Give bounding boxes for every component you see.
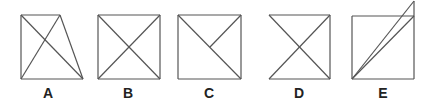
figure-line [352,16,414,79]
figure-a [21,15,83,79]
figure-label-c: C [204,85,214,101]
figure-e [352,1,414,79]
figure-c [178,15,241,79]
figure-label-d: D [294,85,304,101]
figure-canvas [0,0,433,105]
figure-label-b: B [123,85,133,101]
figure-line [210,15,241,47]
figure-line [60,15,83,79]
figure-line [352,1,414,79]
figure-label-e: E [378,85,387,101]
figure-line [21,15,83,79]
figure-label-a: A [43,85,53,101]
figure-d [269,15,330,79]
figure-line [21,15,60,79]
figure-b [98,15,160,79]
